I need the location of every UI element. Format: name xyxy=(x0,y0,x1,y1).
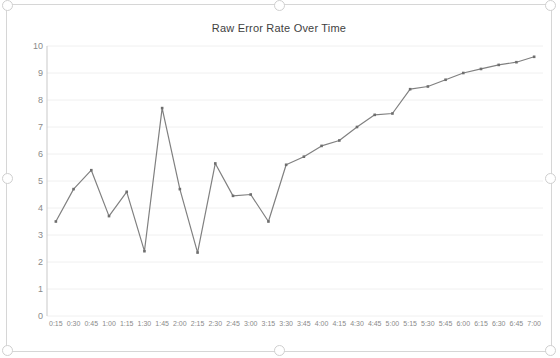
x-axis-tick-label: 5:45 xyxy=(439,320,453,327)
x-axis-tick-label: 4:30 xyxy=(350,320,364,327)
data-point xyxy=(55,220,58,223)
data-point xyxy=(533,56,536,59)
x-axis-tick-label: 4:45 xyxy=(368,320,382,327)
y-axis-tick-label: 7 xyxy=(25,122,43,132)
y-axis-tick-label: 9 xyxy=(25,68,43,78)
y-axis-tick-label: 3 xyxy=(25,230,43,240)
y-axis-tick-label: 4 xyxy=(25,203,43,213)
data-point xyxy=(267,220,270,223)
data-point xyxy=(303,155,306,158)
x-axis-tick-label: 1:00 xyxy=(102,320,116,327)
data-point xyxy=(249,193,252,196)
x-axis-tick-label: 7:00 xyxy=(527,320,541,327)
x-axis-tick-label: 5:00 xyxy=(386,320,400,327)
y-axis-tick-label: 1 xyxy=(25,284,43,294)
chart-frame[interactable]: Raw Error Rate Over Time 012345678910 0:… xyxy=(6,4,552,352)
x-axis-tick-label: 6:15 xyxy=(474,320,488,327)
x-axis-tick-label: 2:30 xyxy=(208,320,222,327)
data-point xyxy=(125,191,128,194)
data-point xyxy=(196,251,199,254)
x-axis-tick-label: 3:15 xyxy=(262,320,276,327)
x-axis-tick-label: 2:15 xyxy=(191,320,205,327)
gridlines xyxy=(47,46,543,316)
y-axis-tick-label: 8 xyxy=(25,95,43,105)
data-point xyxy=(285,164,288,167)
data-point xyxy=(179,188,182,191)
x-axis-tick-label: 3:00 xyxy=(244,320,258,327)
data-point xyxy=(409,88,412,91)
data-point xyxy=(373,114,376,117)
x-axis-tick-label: 3:30 xyxy=(279,320,293,327)
x-axis-tick-label: 4:15 xyxy=(332,320,346,327)
x-axis-tick-label: 1:45 xyxy=(155,320,169,327)
x-axis-tick-label: 6:00 xyxy=(456,320,470,327)
data-point xyxy=(72,188,75,191)
x-axis-labels: 0:150:300:451:001:151:301:452:002:152:30… xyxy=(47,320,543,336)
x-axis-tick-label: 1:30 xyxy=(138,320,152,327)
x-axis-tick-label: 3:45 xyxy=(297,320,311,327)
plot-area[interactable]: 012345678910 0:150:300:451:001:151:301:4… xyxy=(7,5,553,353)
series-markers xyxy=(55,56,536,254)
data-point xyxy=(320,145,323,148)
x-axis-tick-label: 6:30 xyxy=(492,320,506,327)
data-point xyxy=(480,68,483,71)
x-axis-tick-label: 0:15 xyxy=(49,320,63,327)
line-chart-svg xyxy=(7,5,553,353)
data-point xyxy=(108,215,111,218)
data-point xyxy=(497,64,500,67)
x-axis-tick-label: 0:45 xyxy=(84,320,98,327)
x-axis-tick-label: 2:00 xyxy=(173,320,187,327)
x-axis-tick-label: 2:45 xyxy=(226,320,240,327)
data-point xyxy=(427,85,430,88)
data-point xyxy=(356,126,359,129)
data-point xyxy=(232,195,235,198)
data-point xyxy=(143,250,146,253)
y-axis-tick-label: 5 xyxy=(25,176,43,186)
data-point xyxy=(214,162,217,165)
data-point xyxy=(338,139,341,142)
series-line xyxy=(56,57,534,253)
data-point xyxy=(391,112,394,115)
x-axis-tick-label: 6:45 xyxy=(510,320,524,327)
x-axis-tick-label: 5:30 xyxy=(421,320,435,327)
y-axis-tick-label: 6 xyxy=(25,149,43,159)
x-axis-tick-label: 1:15 xyxy=(120,320,134,327)
data-point xyxy=(462,72,465,75)
data-point xyxy=(161,107,164,110)
data-point xyxy=(515,61,518,64)
y-axis-labels: 012345678910 xyxy=(25,46,43,316)
y-axis-tick-label: 10 xyxy=(25,41,43,51)
x-axis-tick-label: 0:30 xyxy=(67,320,81,327)
y-axis-tick-label: 0 xyxy=(25,311,43,321)
data-point xyxy=(90,169,93,172)
y-axis-tick-label: 2 xyxy=(25,257,43,267)
data-point xyxy=(444,78,447,81)
x-axis-tick-label: 5:15 xyxy=(403,320,417,327)
x-axis-tick-label: 4:00 xyxy=(315,320,329,327)
